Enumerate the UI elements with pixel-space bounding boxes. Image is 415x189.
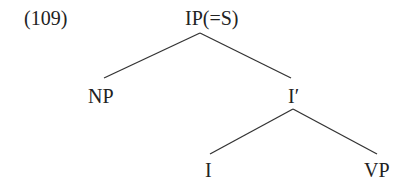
edge-ip-np bbox=[104, 33, 200, 78]
node-vp: VP bbox=[364, 160, 390, 180]
node-np: NP bbox=[88, 86, 114, 106]
node-ip: IP(=S) bbox=[185, 8, 239, 28]
edge-ibar-i bbox=[210, 109, 293, 154]
edge-ibar-vp bbox=[293, 109, 377, 154]
syntax-tree-diagram: (109) IP(=S) NP I′ I VP bbox=[0, 0, 415, 189]
edge-ip-ibar bbox=[200, 33, 291, 78]
node-i-bar: I′ bbox=[288, 86, 299, 106]
node-i: I bbox=[205, 160, 212, 180]
example-number: (109) bbox=[24, 8, 67, 28]
